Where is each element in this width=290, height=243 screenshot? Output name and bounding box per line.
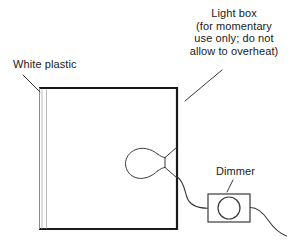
light-box-interior: [40, 88, 177, 230]
wire-bulb-to-dimmer: [178, 177, 208, 208]
dimmer-box: [208, 194, 250, 222]
light-box: [39, 87, 178, 230]
label-light-box-line-3: use only; do not: [178, 32, 290, 45]
label-dimmer: Dimmer: [216, 165, 255, 178]
leader-line-dimmer: [227, 180, 233, 192]
label-light-box-line-2: (for momentary: [178, 20, 290, 33]
leader-line-white-plastic: [23, 75, 40, 92]
label-light-box-line-4: allow to overheat): [178, 45, 290, 58]
dimmer-knob: [218, 197, 240, 219]
label-light-box-line-1: Light box: [178, 7, 290, 20]
leader-line-light-box: [185, 70, 222, 101]
label-white-plastic: White plastic: [13, 58, 77, 71]
light-box-diagram: White plastic Light box (for momentary u…: [0, 0, 290, 243]
label-light-box: Light box (for momentary use only; do no…: [178, 7, 290, 57]
wire-dimmer-output: [250, 208, 286, 237]
